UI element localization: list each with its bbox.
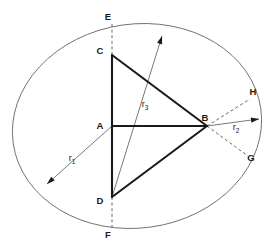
point-label-h: H [250,86,257,97]
triangle-segments [112,55,207,197]
radius-labels: r1r2r3 [69,99,240,165]
chord-B-H [207,99,250,126]
radius-arrowhead-r2 [251,117,259,122]
radius-label-r3: r3 [142,99,149,111]
radius-arrows [47,36,259,197]
point-label-a: A [97,120,104,131]
segment-B-D [112,126,207,197]
geometry-figure: ABCDEFGH r1r2r3 [0,0,276,252]
point-label-b: B [202,112,209,123]
radius-line-r1 [47,126,112,184]
point-label-f: F [105,229,111,240]
point-label-c: C [97,45,104,56]
point-label-g: G [247,152,254,163]
point-label-d: D [97,195,104,206]
segment-C-B [112,55,207,126]
point-label-e: E [105,11,111,22]
diagram-canvas: ABCDEFGH r1r2r3 [0,0,276,252]
radius-label-r1: r1 [69,153,76,165]
radius-arrowhead-r3 [157,36,162,44]
chord-B-G [207,126,248,156]
radius-label-r2: r2 [233,122,240,134]
